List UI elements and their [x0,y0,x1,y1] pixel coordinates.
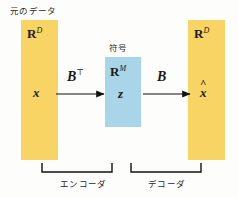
encoder-label: エンコーダ [60,180,107,189]
input-space-letter: R [27,26,36,41]
input-space-dim: D [36,26,42,35]
code-space-dim: M [119,64,126,73]
code-space-symbol: RM [110,65,126,78]
code-label: 符号 [109,44,128,53]
output-space-dim: D [203,26,209,35]
encoder-matrix-letter: B [67,69,76,84]
encoder-matrix-transpose: ⊤ [76,68,84,77]
code-vector-symbol: z [118,87,123,100]
autoencoder-diagram: 元のデータ 符号 RD RM RD x z ^x B⊤ B エンコーダ デコーダ [0,0,238,197]
output-space-letter: R [194,26,203,41]
output-vector-symbol: ^x [200,86,207,99]
decoder-label: デコーダ [148,180,185,189]
decoder-bracket [131,163,201,172]
hat-accent: ^ [200,78,207,89]
encoder-bracket [42,163,112,172]
output-space-symbol: RD [194,27,209,40]
input-vector-symbol: x [33,86,40,99]
decoder-matrix-symbol: B [157,70,166,84]
original-data-label: 元のデータ [10,7,57,16]
code-space-letter: R [110,64,119,79]
output-vector-hatwrap: ^x [200,86,207,99]
encoder-matrix-symbol: B⊤ [67,70,84,84]
input-space-symbol: RD [27,27,42,40]
